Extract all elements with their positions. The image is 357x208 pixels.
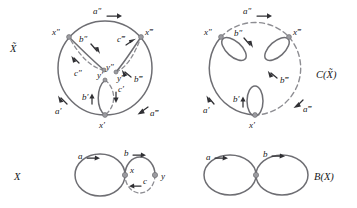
label-x-double-prime: x″	[51, 27, 60, 37]
label-a-base: a	[78, 151, 83, 161]
arrow-b-bouquet	[272, 153, 285, 158]
label-x-base: x	[129, 165, 134, 175]
edge-a-double-prime-collapsed	[221, 22, 289, 37]
label-a-prime: a′	[55, 106, 63, 116]
vertex-x-prime	[103, 113, 108, 118]
vertex-x-double-prime	[67, 35, 72, 40]
label-a-double-prime-collapsed: a″	[243, 6, 252, 16]
panel-c-x-tilde: a″ a‴ a′ x″ x‴ x′ b″ b‴ b′ C(X̃)	[203, 6, 337, 130]
label-a-triple-prime-collapsed: a‴	[303, 104, 313, 114]
arrow-a-prime	[58, 96, 67, 105]
vertex-x-base	[122, 172, 127, 177]
label-x-prime-collapsed: x′	[248, 120, 256, 130]
label-c-base: c	[143, 176, 147, 186]
arrow-c-double-prime	[71, 56, 79, 63]
vertex-y-base	[152, 172, 157, 177]
label-a-prime-collapsed: a′	[203, 105, 211, 115]
label-c-triple-prime: c‴	[117, 34, 126, 44]
figure-canvas: X̃ a″ a‴ a′ x″ x‴ x′ b″ b‴ b′ c″ c‴ c′ y…	[0, 0, 357, 208]
label-y-triple-prime: y‴	[116, 73, 126, 83]
arrow-b-prime	[89, 94, 94, 105]
label-b-double-prime-collapsed: b″	[234, 28, 243, 38]
label-a-double-prime: a″	[93, 6, 102, 16]
loop-b-prime	[247, 86, 263, 116]
arrow-a-triple-prime-collapsed	[294, 100, 304, 108]
vertex-x-prime-collapsed	[253, 113, 258, 118]
label-c-prime: c′	[118, 84, 125, 94]
vertex-x-double-prime-collapsed	[219, 35, 224, 40]
edge-a-bouquet-loop	[204, 155, 256, 195]
vertex-basepoint-bouquet	[253, 172, 258, 177]
vertex-x-triple-prime-collapsed	[287, 35, 292, 40]
arrow-a-double-prime	[107, 13, 122, 19]
arrow-a-triple-prime	[138, 107, 149, 115]
panel-label-c-x-tilde: C(X̃)	[316, 68, 337, 81]
panel-x-base: X a b c x y	[13, 148, 165, 196]
label-x-double-prime-collapsed: x″	[203, 27, 212, 37]
label-c-double-prime: c″	[74, 68, 82, 78]
panel-label-x-tilde: X̃	[9, 42, 17, 54]
arrow-b-double-prime-collapsed	[244, 38, 253, 48]
label-x-prime: x′	[98, 120, 106, 130]
vertex-y-prime	[103, 78, 107, 82]
panel-label-b-x: B(X)	[314, 171, 334, 183]
label-b-triple-prime: b‴	[134, 74, 144, 84]
edge-c-prime	[105, 80, 114, 115]
panel-x-tilde: X̃ a″ a‴ a′ x″ x‴ x′ b″ b‴ b′ c″ c‴ c′ y…	[9, 6, 160, 130]
label-x-triple-prime-collapsed: x‴	[292, 27, 302, 37]
label-b-base: b	[124, 148, 129, 158]
edge-a-base-loop	[75, 154, 125, 196]
edge-c-base	[125, 175, 155, 193]
arrow-b-double-prime	[91, 44, 100, 54]
edge-b-prime	[98, 80, 105, 115]
arrow-b-prime-collapsed	[240, 97, 245, 108]
label-y-double-prime: y″	[105, 62, 114, 72]
label-a-triple-prime: a‴	[150, 108, 160, 118]
label-b-double-prime: b″	[79, 34, 88, 44]
label-a-bouquet: a	[206, 152, 211, 162]
arrow-a-prime-collapsed	[207, 96, 215, 105]
arrow-a-double-prime-collapsed	[257, 13, 272, 19]
label-b-prime-collapsed: b′	[233, 94, 241, 104]
label-b-bouquet: b	[263, 149, 268, 159]
label-b-prime: b′	[82, 92, 90, 102]
label-b-triple-prime-collapsed: b‴	[280, 75, 290, 85]
label-x-triple-prime: x‴	[144, 27, 154, 37]
arrow-c-base	[129, 183, 141, 188]
vertex-x-triple-prime	[139, 35, 144, 40]
edge-b-bouquet-loop	[256, 155, 308, 195]
arrow-c-triple-prime	[126, 39, 136, 45]
arrow-b-triple-prime-collapsed	[268, 71, 277, 78]
topology-diagram: X̃ a″ a‴ a′ x″ x‴ x′ b″ b‴ b′ c″ c‴ c′ y…	[0, 0, 357, 208]
label-y-prime: y′	[96, 70, 104, 80]
panel-label-x: X	[13, 171, 21, 182]
panel-b-x: a b B(X)	[204, 149, 334, 195]
label-y-base: y	[160, 171, 165, 181]
edge-a-triple-prime-collapsed	[255, 37, 301, 115]
